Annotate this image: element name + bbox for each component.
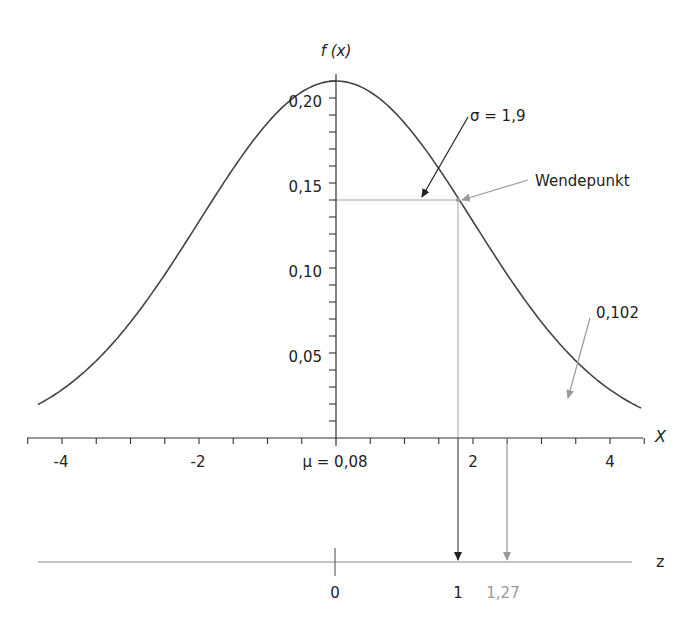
sigma-label: σ = 1,9 — [470, 107, 525, 125]
y-tick-label: 0,20 — [289, 93, 322, 111]
z-axis — [38, 548, 632, 576]
y-tick-label: 0,15 — [289, 178, 322, 196]
x-tick-label: -4 — [54, 453, 69, 471]
sigma-arrow — [422, 117, 468, 197]
inflection-point — [456, 198, 460, 202]
y-tick-label: 0,10 — [289, 263, 322, 281]
area-arrow — [568, 318, 590, 398]
y-axis-title: f (x) — [321, 42, 352, 60]
mu-label: μ = 0,08 — [302, 453, 367, 471]
wendepunkt-arrow — [462, 180, 528, 200]
y-axis — [329, 74, 336, 446]
x-axis-title: X — [654, 427, 667, 446]
normal-distribution-chart: 0,20 0,15 0,10 0,05 -4 -2 2 4 μ = 0,08 f… — [0, 0, 693, 625]
y-tick-label: 0,05 — [289, 348, 322, 366]
z-axis-title: z — [656, 552, 664, 571]
area-label: 0,102 — [596, 304, 639, 322]
density-curve — [38, 81, 641, 408]
x-tick-label: 2 — [468, 453, 478, 471]
z-tick-label-1-27: 1,27 — [486, 584, 519, 602]
wendepunkt-label: Wendepunkt — [535, 172, 630, 190]
z-tick-label-1: 1 — [453, 584, 463, 602]
x-tick-label: 4 — [605, 453, 615, 471]
z-tick-label-0: 0 — [330, 584, 340, 602]
x-tick-label: -2 — [191, 453, 206, 471]
